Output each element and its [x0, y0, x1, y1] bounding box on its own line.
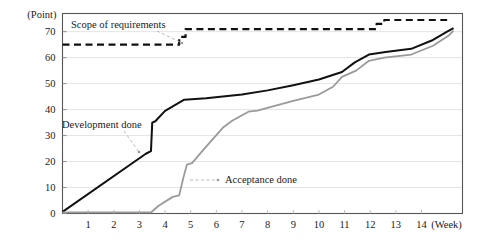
x-tick-label-5: 5	[188, 219, 193, 230]
x-tick-label-8: 8	[265, 219, 270, 230]
y-tick-label-0: 0	[50, 208, 55, 219]
chart-canvas: 010203040506070 1234567891011121314 (Poi…	[0, 0, 479, 241]
x-tick-label-10: 10	[314, 219, 325, 230]
x-tick-label-3: 3	[137, 219, 142, 230]
x-tick-label-11: 11	[339, 219, 349, 230]
acceptance-done-label-leader-dot	[217, 179, 220, 182]
x-tick-label-9: 9	[291, 219, 296, 230]
x-tick-label-7: 7	[239, 219, 244, 230]
y-tick-label-70: 70	[45, 26, 56, 37]
development-done-label: Development done	[62, 119, 142, 130]
y-tick-label-60: 60	[45, 52, 56, 63]
acceptance-done-label: Acceptance done	[225, 174, 297, 185]
y-tick-label-30: 30	[45, 130, 56, 141]
development-done-label-leader-dot	[138, 151, 141, 154]
x-tick-label-1: 1	[86, 219, 91, 230]
y-axis-unit-label: (Point)	[27, 9, 57, 21]
x-tick-label-4: 4	[162, 219, 168, 230]
x-tick-label-14: 14	[416, 219, 427, 230]
x-axis-unit-label: (Week)	[431, 219, 462, 231]
x-tick-label-2: 2	[111, 219, 116, 230]
burn-up-chart: 010203040506070 1234567891011121314 (Poi…	[0, 0, 479, 241]
y-tick-label-50: 50	[45, 78, 56, 89]
x-tick-label-13: 13	[391, 219, 402, 230]
y-tick-label-20: 20	[45, 156, 56, 167]
y-tick-label-10: 10	[45, 182, 56, 193]
x-tick-label-12: 12	[365, 219, 376, 230]
scope-of-requirements-label: Scope of requirements	[71, 19, 165, 30]
x-tick-label-6: 6	[214, 219, 219, 230]
scope-of-requirements-label-leader-dot	[181, 42, 184, 45]
y-tick-label-40: 40	[45, 104, 56, 115]
